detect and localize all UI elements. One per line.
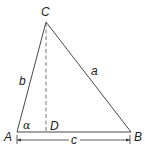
side-label-b: b xyxy=(19,74,26,88)
foot-label-d: D xyxy=(50,119,59,133)
vertex-label-b: B xyxy=(134,130,142,144)
side-label-c: c xyxy=(71,133,77,147)
side-a xyxy=(46,22,131,132)
vertex-label-a: A xyxy=(3,130,12,144)
angle-label-alpha: α xyxy=(23,119,31,132)
vertex-label-c: C xyxy=(41,5,50,19)
side-label-a: a xyxy=(91,64,98,78)
triangle-diagram: C A B D a b c α xyxy=(0,0,145,159)
